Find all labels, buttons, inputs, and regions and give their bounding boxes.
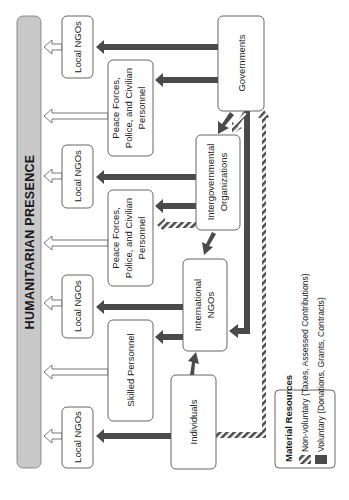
svg-text:NGOs: NGOs — [205, 292, 216, 319]
local-ngos-box: Local NGOs — [62, 145, 93, 208]
svg-text:Peace Forces,: Peace Forces, — [110, 77, 121, 138]
local-ngos-box: Local NGOs — [62, 16, 93, 78]
svg-text:Peace Forces,: Peace Forces, — [110, 207, 121, 268]
humanitarian-presence-diagram: HUMANITARIAN PRESENCE — [0, 0, 349, 500]
svg-text:Governments: Governments — [236, 34, 247, 91]
svg-text:International: International — [192, 279, 203, 331]
presence-title: HUMANITARIAN PRESENCE — [23, 155, 37, 330]
svg-text:Local NGOs: Local NGOs — [72, 150, 83, 202]
legend: Material Resources Non-voluntary (Taxes,… — [275, 273, 335, 468]
humanitarian-presence-bar: HUMANITARIAN PRESENCE — [17, 16, 41, 468]
svg-text:Police, and Civilian: Police, and Civilian — [123, 68, 134, 148]
intergovernmental-box: Intergovernmental Organizations — [196, 135, 240, 230]
svg-text:Local NGOs: Local NGOs — [72, 21, 83, 73]
legend-title: Material Resources — [283, 375, 294, 462]
legend-non-voluntary: Non-voluntary (Taxes, Assessed Contribut… — [300, 273, 310, 452]
local-ngos-box: Local NGOs — [62, 407, 93, 468]
hollow-arrow-icon — [44, 169, 62, 183]
svg-text:Individuals: Individuals — [188, 399, 199, 444]
hollow-arrows — [44, 40, 108, 443]
hollow-arrow-icon — [44, 40, 62, 54]
svg-text:Personnel: Personnel — [136, 217, 147, 260]
svg-text:Intergovernmental: Intergovernmental — [205, 144, 216, 221]
peace-forces-box: Peace Forces, Police, and Civilian Perso… — [108, 60, 153, 156]
governments-box: Governments — [218, 16, 264, 111]
legend-voluntary: Voluntary (Donations, Grants, Contracts) — [316, 297, 326, 452]
hollow-arrow-icon — [44, 109, 108, 123]
solid-swatch-icon — [315, 455, 327, 464]
international-ngos-box: International NGOs — [183, 259, 227, 351]
hollow-arrow-icon — [44, 429, 62, 443]
svg-text:Local NGOs: Local NGOs — [72, 411, 83, 463]
peace-forces-box: Peace Forces, Police, and Civilian Perso… — [108, 190, 153, 286]
hollow-arrow-icon — [44, 365, 108, 379]
svg-text:Local NGOs: Local NGOs — [72, 280, 83, 332]
hollow-arrow-icon — [44, 236, 108, 250]
hatched-swatch-icon — [299, 455, 311, 464]
local-ngos-box: Local NGOs — [62, 275, 93, 338]
hollow-arrow-icon — [44, 296, 62, 310]
skilled-personnel-box: Skilled Personnel — [108, 320, 153, 421]
svg-text:Skilled Personnel: Skilled Personnel — [125, 333, 136, 406]
svg-text:Organizations: Organizations — [218, 152, 229, 211]
individuals-box: Individuals — [171, 375, 216, 469]
svg-text:Personnel: Personnel — [136, 87, 147, 130]
svg-text:Police, and Civilian: Police, and Civilian — [123, 198, 134, 278]
